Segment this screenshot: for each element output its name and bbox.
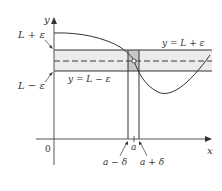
- x-axis-arrow-icon: [205, 136, 212, 142]
- hole-point: [132, 59, 136, 63]
- x-axis-label: x: [207, 145, 213, 156]
- label-y-equals-L-plus-epsilon: y = L + ε: [161, 38, 205, 48]
- origin-label: 0: [45, 144, 51, 154]
- label-a-minus-delta: a − δ: [103, 157, 127, 167]
- epsilon-delta-diagram: y x 0 L + ε L − ε y = L + ε y = L − ε a …: [0, 0, 222, 191]
- label-y-equals-L-minus-epsilon: y = L − ε: [67, 74, 111, 84]
- label-L-plus-epsilon: L + ε: [17, 29, 45, 40]
- y-axis-arrow-icon: [51, 17, 57, 24]
- label-a-plus-delta: a + δ: [140, 157, 164, 167]
- label-a: a: [131, 142, 136, 152]
- label-L-minus-epsilon: L − ε: [17, 80, 45, 91]
- y-axis-label: y: [43, 14, 50, 25]
- pointer-arrowhead-icon: [49, 72, 53, 76]
